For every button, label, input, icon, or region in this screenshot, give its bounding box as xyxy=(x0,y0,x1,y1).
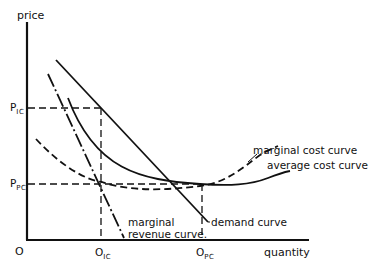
p-ic-sub: IC xyxy=(16,108,24,116)
p-pc-label: PPC xyxy=(10,178,26,192)
cost-curve-diagram: price quantity O PIC PPC OIC OPC margina… xyxy=(0,0,387,271)
o-pc-sub: PC xyxy=(204,253,214,261)
marginal-revenue-label-2: revenue curve. xyxy=(128,229,207,240)
marginal-cost-label: marginal cost curve xyxy=(253,145,357,156)
y-axis-label: price xyxy=(17,10,44,21)
o-ic-sub: IC xyxy=(103,253,111,261)
x-axis-label: quantity xyxy=(264,247,310,258)
o-ic-label: OIC xyxy=(95,247,111,261)
marginal-cost-curve xyxy=(36,139,278,189)
o-pc-label: OPC xyxy=(196,247,214,261)
p-pc-sub: PC xyxy=(16,184,26,192)
average-cost-label: average cost curve xyxy=(267,160,368,171)
origin-label: O xyxy=(15,246,24,257)
marginal-revenue-label-1: marginal xyxy=(128,217,174,228)
p-ic-label: PIC xyxy=(10,102,24,116)
marginal-revenue-curve xyxy=(48,74,124,238)
demand-label: demand curve xyxy=(211,217,287,228)
